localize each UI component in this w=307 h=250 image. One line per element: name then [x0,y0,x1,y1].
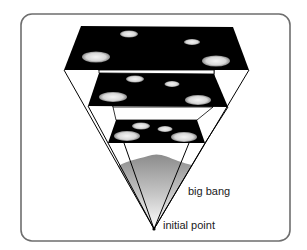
big-bang-cone-diagram [0,0,307,250]
galaxy-icon [165,81,180,87]
initial-point-label: initial point [163,219,215,231]
galaxy-icon [132,123,150,130]
connector-strip [113,107,213,120]
galaxy-icon [120,31,138,38]
galaxy-icon [184,39,200,45]
initial-point-marker [152,227,155,230]
universe-slice-top [64,26,249,70]
galaxy-icon [82,52,110,63]
galaxy-icon [185,95,211,105]
galaxy-icon [114,131,140,141]
universe-slice-bottom [108,120,205,143]
galaxy-icon [158,126,173,132]
galaxy-icon [171,132,197,142]
big-bang-label: big bang [188,185,230,197]
galaxy-icon [99,92,127,102]
galaxy-icon [126,76,144,83]
universe-slice-middle [88,73,228,107]
galaxy-icon [202,56,230,67]
